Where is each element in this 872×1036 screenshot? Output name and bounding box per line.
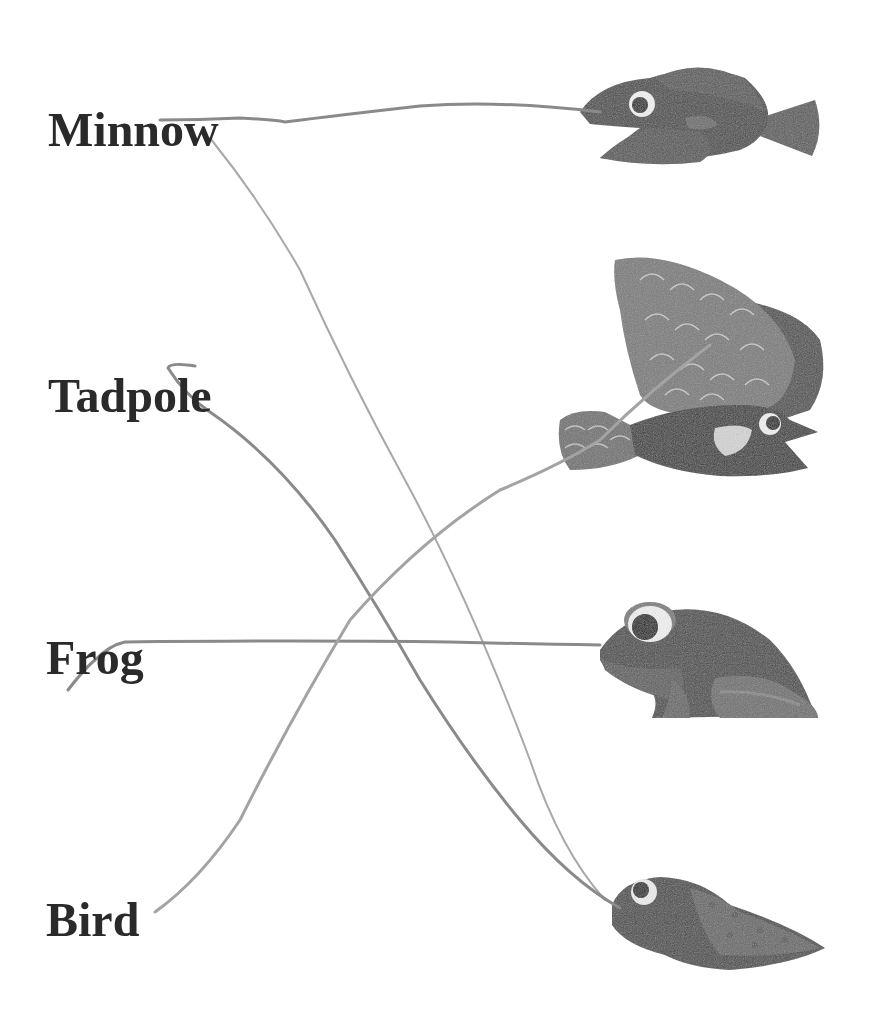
bird-illustration[interactable] bbox=[559, 258, 824, 477]
matching-worksheet: Minnow Tadpole Frog Bird bbox=[0, 0, 872, 1036]
label-tadpole[interactable]: Tadpole bbox=[48, 372, 212, 420]
fish-illustration[interactable] bbox=[580, 67, 819, 164]
frog-illustration[interactable] bbox=[600, 602, 818, 718]
label-bird[interactable]: Bird bbox=[46, 896, 139, 944]
label-frog[interactable]: Frog bbox=[46, 634, 144, 682]
label-minnow[interactable]: Minnow bbox=[48, 106, 219, 154]
tadpole-illustration[interactable] bbox=[612, 877, 825, 970]
